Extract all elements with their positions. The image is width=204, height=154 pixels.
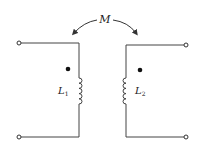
- inductor-l2-coil-icon: [123, 78, 126, 104]
- inductor-l1-coil-icon: [79, 78, 82, 104]
- terminal-icon: [17, 135, 21, 139]
- right-circuit: [123, 45, 184, 137]
- mutual-inductance-label: M: [98, 13, 111, 26]
- mutual-arrow-right-icon: [113, 20, 136, 33]
- polarity-dot-l2-icon: [138, 68, 143, 73]
- terminal-icon: [184, 135, 188, 139]
- polarity-dot-l1-icon: [66, 67, 71, 72]
- terminal-icon: [17, 41, 21, 45]
- inductor-l2-label: L2: [134, 85, 146, 97]
- terminal-icon: [184, 43, 188, 47]
- inductor-l1-label: L1: [57, 85, 68, 97]
- left-circuit: [21, 43, 82, 137]
- circuit-svg: M L1 L2: [0, 0, 204, 154]
- coupled-inductor-diagram: M L1 L2: [0, 0, 204, 154]
- mutual-arrow-left-icon: [74, 20, 97, 33]
